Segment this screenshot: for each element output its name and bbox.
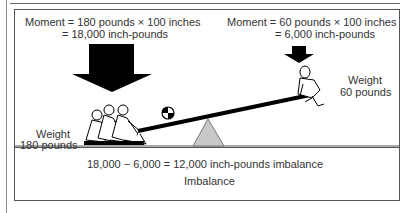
- imbalance-caption: Imbalance: [184, 175, 235, 187]
- left-moment-line1: Moment = 180 pounds × 100 inches: [25, 16, 201, 28]
- right-weight-value: 60 pounds: [340, 86, 391, 98]
- right-moment-line1: Moment = 60 pounds × 100 inches: [227, 16, 396, 28]
- right-weight-label: Weight: [345, 74, 385, 86]
- right-moment-line2: = 6,000 inch-pounds: [275, 28, 375, 40]
- three-people-figures: [84, 105, 146, 145]
- fulcrum-triangle: [193, 119, 224, 146]
- left-moment-line2: = 18,000 inch-pounds: [62, 28, 168, 40]
- ball-icon: [162, 107, 174, 119]
- child-figure: [298, 66, 324, 106]
- large-down-arrow-icon: [72, 44, 152, 92]
- left-weight-value: 180 pounds: [20, 139, 78, 151]
- small-down-arrow-icon: [284, 46, 314, 63]
- imbalance-equation: 18,000 − 6,000 = 12,000 inch-pounds imba…: [87, 158, 323, 170]
